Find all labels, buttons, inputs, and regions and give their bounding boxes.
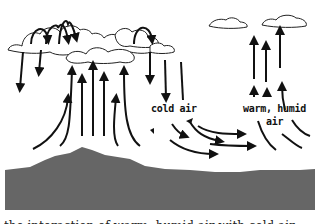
warm-air-updraft-arrows bbox=[254, 30, 285, 110]
ground-terrain bbox=[5, 147, 315, 210]
downdraft-line bbox=[181, 62, 183, 100]
warm-humid-air-label: air bbox=[266, 116, 283, 127]
warm-humid-label: warm, humid bbox=[243, 103, 306, 114]
cold-air-flow-arrows bbox=[170, 122, 252, 154]
updraft-arrows bbox=[33, 65, 140, 149]
cloud-right-small bbox=[209, 15, 306, 28]
bottom-caption-cut: the interaction of warm, humid air with … bbox=[4, 216, 323, 224]
cold-air-label: cold air bbox=[151, 103, 197, 114]
cold-air-small-arrowhead bbox=[186, 118, 193, 124]
cold-air-left-arrowhead bbox=[150, 128, 154, 134]
